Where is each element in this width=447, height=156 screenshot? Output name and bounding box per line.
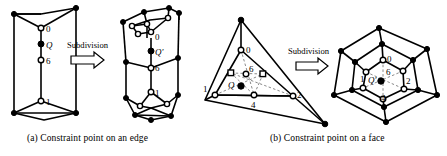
panel-a-before-mesh <box>14 8 76 120</box>
label-b-after-1: 1 <box>360 74 365 84</box>
label-b-after-4: 4 <box>381 93 386 103</box>
label-a-after-6: 6 <box>155 63 160 73</box>
label-a-before-6: 6 <box>46 56 51 66</box>
panel-a-before-constraint-node <box>38 41 44 47</box>
figure-root: 0 Q 6 1 0 Q' 6 1 0 1 2 4 6 Q 0 1 2 4 6 Q… <box>0 0 447 156</box>
label-a-before-0: 0 <box>46 24 51 34</box>
label-b-before-1: 1 <box>203 84 208 94</box>
caption-panel-b: (b) Constraint point on a face <box>270 133 385 143</box>
label-b-before-0: 0 <box>246 45 251 55</box>
label-a-after-1: 1 <box>155 88 160 98</box>
label-a-before-Q: Q <box>46 40 53 50</box>
label-b-after-0: 0 <box>387 54 392 64</box>
label-b-before-2: 2 <box>297 90 302 100</box>
subdivision-label-b: Subdivision <box>288 46 330 56</box>
label-a-after-0: 0 <box>155 32 160 42</box>
label-a-before-1: 1 <box>46 97 51 107</box>
caption-panel-a: (a) Constraint point on an edge <box>27 133 148 143</box>
label-b-before-Q: Q <box>228 80 235 90</box>
label-b-before-6: 6 <box>249 64 254 74</box>
label-b-after-6: 6 <box>386 67 391 77</box>
panel-b-after-constraint-node <box>378 78 384 84</box>
label-b-before-4: 4 <box>251 100 256 110</box>
label-b-after-2: 2 <box>406 76 411 86</box>
subdivision-arrow-b <box>296 58 328 74</box>
label-a-after-Q: Q' <box>155 47 164 57</box>
panel-a-before-corner-nodes <box>11 5 78 115</box>
label-b-after-Q: Q' <box>368 75 377 85</box>
panel-a-after-hollow-nodes <box>129 15 170 108</box>
panel-b-before-dashed-edges <box>215 50 293 96</box>
subdivision-label-a: Subdivision <box>67 40 109 50</box>
panel-a-after-constraint-node <box>148 48 154 54</box>
panel-b-before-constraint-node <box>238 83 244 89</box>
